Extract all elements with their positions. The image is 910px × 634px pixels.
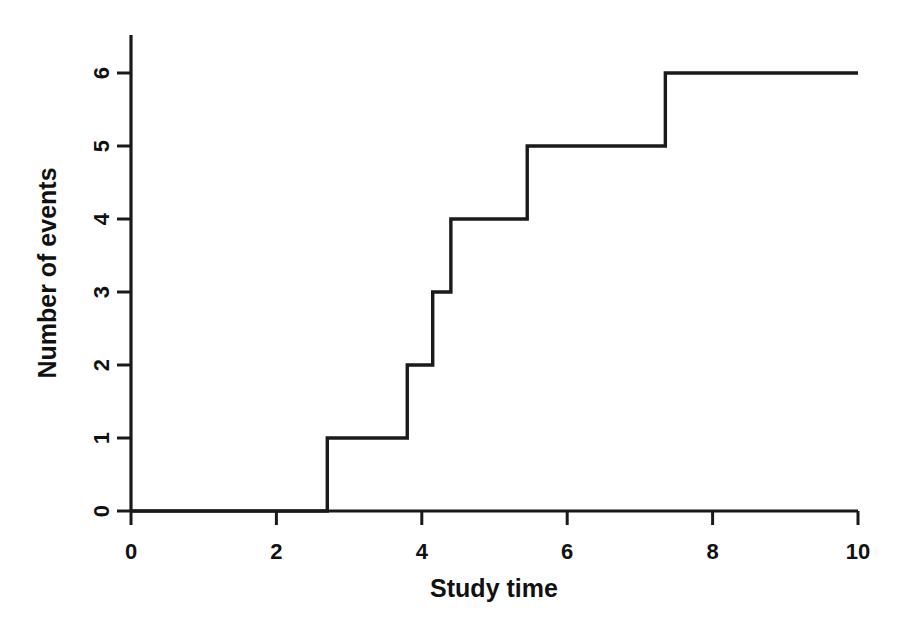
x-axis-ticks — [131, 511, 858, 525]
x-axis-tick-labels: 0246810 — [125, 539, 870, 564]
y-axis-ticks — [117, 73, 131, 511]
x-tick-label-0: 0 — [125, 539, 137, 564]
y-tick-label-6: 6 — [89, 67, 114, 79]
x-tick-label-10: 10 — [846, 539, 870, 564]
x-axis-title: Study time — [430, 574, 558, 602]
plot-canvas: 0246810 0123456 Study time Number of eve… — [0, 0, 910, 634]
x-tick-label-8: 8 — [706, 539, 718, 564]
y-tick-label-3: 3 — [89, 286, 114, 298]
x-tick-label-2: 2 — [270, 539, 282, 564]
x-tick-label-4: 4 — [416, 539, 429, 564]
step-function-line — [131, 73, 858, 511]
y-axis-title: Number of events — [33, 167, 61, 378]
y-axis-tick-labels: 0123456 — [89, 67, 114, 517]
y-tick-label-2: 2 — [89, 359, 114, 371]
y-tick-label-5: 5 — [89, 140, 114, 152]
y-tick-label-0: 0 — [89, 505, 114, 517]
y-tick-label-1: 1 — [89, 432, 114, 444]
y-tick-label-4: 4 — [89, 212, 114, 225]
step-plot-figure: 0246810 0123456 Study time Number of eve… — [0, 0, 910, 634]
x-tick-label-6: 6 — [561, 539, 573, 564]
